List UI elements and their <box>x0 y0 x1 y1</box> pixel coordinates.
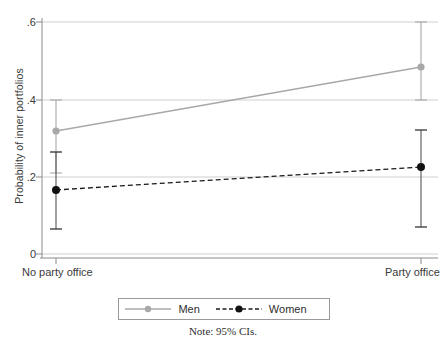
series-women <box>50 130 427 229</box>
data-point-men-no-party-office <box>52 127 59 134</box>
data-point-women-party-office <box>417 163 425 171</box>
chart-note: Note: 95% CIs. <box>0 325 446 337</box>
plot-area <box>0 0 446 348</box>
legend-item-men: Men <box>125 303 215 315</box>
legend-swatch-women <box>216 303 262 315</box>
legend: Men Women <box>118 298 330 320</box>
data-point-men-party-office <box>417 63 424 70</box>
data-point-women-no-party-office <box>52 186 60 194</box>
axis-lines <box>36 18 438 264</box>
series-men <box>50 22 427 173</box>
legend-item-women: Women <box>216 303 323 315</box>
legend-label-men: Men <box>178 303 199 315</box>
legend-swatch-men <box>125 303 171 315</box>
error-bar-men-party-office <box>415 22 427 100</box>
error-bar-women-party-office <box>415 130 427 227</box>
legend-label-women: Women <box>269 303 307 315</box>
chart-figure: Probability of inner portfolios .6 .4 .2… <box>0 0 446 348</box>
gridlines <box>42 22 438 254</box>
